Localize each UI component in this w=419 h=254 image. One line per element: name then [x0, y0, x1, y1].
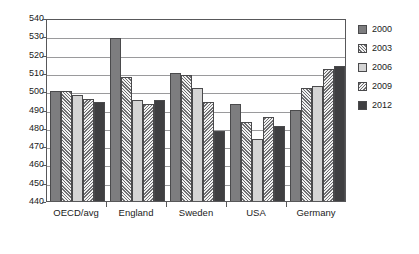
- y-axis-tick-mark: [42, 202, 46, 203]
- bar-group: [287, 20, 345, 201]
- bar: [50, 91, 61, 201]
- legend-item[interactable]: 2000: [358, 20, 416, 39]
- legend-item[interactable]: 2006: [358, 58, 416, 77]
- bar: [203, 102, 214, 201]
- x-axis-category-label: Germany: [286, 207, 346, 218]
- bar: [214, 131, 225, 201]
- legend-item-label: 2009: [372, 82, 392, 91]
- legend-swatch-icon: [358, 63, 367, 72]
- x-axis-category-label: England: [106, 207, 166, 218]
- bar: [241, 122, 252, 201]
- legend-swatch-icon: [358, 44, 367, 53]
- bar: [170, 73, 181, 201]
- y-axis-tick-label: 540: [10, 14, 44, 23]
- legend-item-label: 2003: [372, 44, 392, 53]
- bar: [334, 66, 345, 201]
- bar: [252, 139, 263, 201]
- y-axis-tick-label: 460: [10, 160, 44, 169]
- bar: [61, 91, 72, 201]
- bar: [94, 102, 105, 201]
- legend-swatch-icon: [358, 82, 367, 91]
- y-axis-tick-label: 490: [10, 106, 44, 115]
- bar: [290, 110, 301, 202]
- legend-item[interactable]: 2012: [358, 96, 416, 115]
- legend-item[interactable]: 2003: [358, 39, 416, 58]
- plot-surface: [47, 20, 345, 201]
- bar: [192, 88, 203, 201]
- y-axis-tick-label: 470: [10, 142, 44, 151]
- plot-area: [46, 19, 346, 202]
- legend-item-label: 2000: [372, 25, 392, 34]
- y-axis-tick-label: 520: [10, 51, 44, 60]
- bar-group: [167, 20, 227, 201]
- legend-item-label: 2006: [372, 63, 392, 72]
- bar: [312, 86, 323, 201]
- bar: [301, 88, 312, 201]
- bar-group: [107, 20, 167, 201]
- bar-chart: 540530520510500490480470460450440 OECD/a…: [0, 0, 419, 254]
- x-axis-category-label: Sweden: [166, 207, 226, 218]
- y-axis-tick-label: 530: [10, 32, 44, 41]
- y-axis-tick-label: 450: [10, 179, 44, 188]
- bar: [72, 95, 83, 201]
- bar: [110, 38, 121, 201]
- bar-group: [47, 20, 107, 201]
- bar: [274, 126, 285, 201]
- legend-item[interactable]: 2009: [358, 77, 416, 96]
- y-axis-tick-label: 440: [10, 197, 44, 206]
- y-axis-tick-label: 500: [10, 87, 44, 96]
- bar-group: [227, 20, 287, 201]
- bar: [181, 75, 192, 201]
- legend: 20002003200620092012: [358, 20, 416, 115]
- x-axis-category-label: OECD/avg: [46, 207, 106, 218]
- legend-item-label: 2012: [372, 101, 392, 110]
- x-axis-category-label: USA: [226, 207, 286, 218]
- bar: [230, 104, 241, 201]
- bar: [143, 104, 154, 201]
- legend-swatch-icon: [358, 101, 367, 110]
- bar: [323, 69, 334, 201]
- bar: [83, 99, 94, 201]
- bar: [263, 117, 274, 201]
- bar: [132, 100, 143, 201]
- legend-swatch-icon: [358, 25, 367, 34]
- bar: [154, 100, 165, 201]
- bar: [121, 77, 132, 201]
- y-axis-tick-label: 510: [10, 69, 44, 78]
- y-axis-tick-label: 480: [10, 124, 44, 133]
